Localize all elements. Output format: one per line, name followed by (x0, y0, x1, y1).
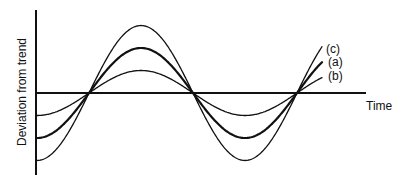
label-curve-a: (a) (328, 55, 343, 69)
x-axis-label: Time (366, 99, 393, 113)
label-curve-c: (c) (326, 42, 340, 56)
y-axis-label: Deviation from trend (15, 38, 29, 146)
label-curve-b: (b) (328, 69, 343, 83)
cycle-chart: (c) (a) (b) Time Deviation from trend (0, 0, 411, 184)
